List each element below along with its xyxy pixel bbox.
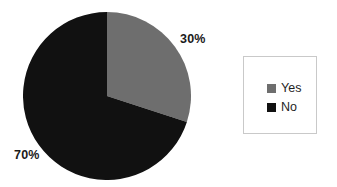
legend-item-no[interactable]: No <box>267 99 301 116</box>
legend: Yes No <box>243 56 317 134</box>
legend-swatch-no-icon <box>267 103 276 112</box>
pie-label-yes: 30% <box>180 33 206 46</box>
legend-label-yes: Yes <box>281 82 301 95</box>
legend-label-no: No <box>281 101 297 114</box>
legend-swatch-yes-icon <box>267 84 276 93</box>
chart-canvas: 30% 70% Yes No <box>0 0 337 187</box>
legend-items: Yes No <box>267 80 301 118</box>
pie-chart-svg <box>23 12 191 180</box>
legend-item-yes[interactable]: Yes <box>267 80 301 97</box>
pie-chart <box>23 12 191 180</box>
pie-label-no: 70% <box>14 149 40 162</box>
